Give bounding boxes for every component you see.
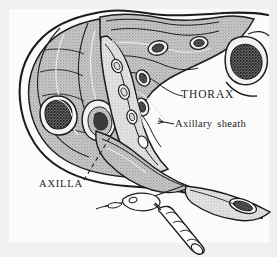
humerus-cross-section xyxy=(40,96,77,135)
label-axillary-sheath: Axillary sheath xyxy=(175,118,246,129)
label-thorax: THORAX xyxy=(181,88,234,100)
vertebral-body xyxy=(225,32,269,97)
leader-axillary-sheath xyxy=(158,121,174,124)
anatomical-figure: THORAX Axillary sheath AXILLA xyxy=(0,0,277,257)
syringe[interactable] xyxy=(154,204,205,256)
distal-arm xyxy=(185,186,270,221)
label-axilla: AXILLA xyxy=(39,178,83,189)
